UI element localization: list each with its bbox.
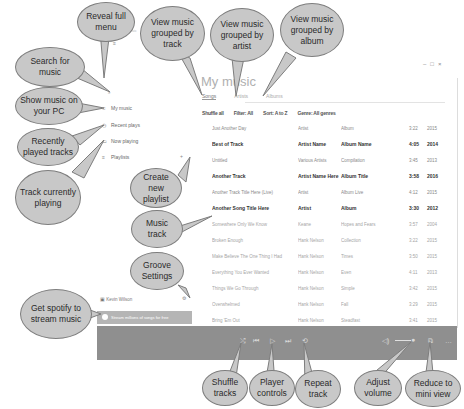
user-account[interactable]: ▣ Kevin Wilson [100,297,132,302]
tab-artists[interactable]: Artists [234,93,248,100]
track-row[interactable]: UntitledVarious ArtistsCompilation3:4520… [212,152,452,168]
callout-shuffle: Shuffle tracks [202,370,248,406]
track-album: Hopes and Fears [341,222,409,227]
callout-group-track: View music grouped by track [140,6,205,61]
track-year: 2015 [427,286,452,291]
track-duration: 3:22 [409,126,427,131]
track-row[interactable]: Broken EnoughHank NelsonCollection3:2220… [212,232,452,248]
track-title: Just Another Day [212,126,298,131]
settings-button[interactable]: ⚙ [182,296,187,301]
track-year: 2015 [427,318,452,323]
user-icon: ▣ [100,297,105,302]
track-row[interactable]: Another Song Title HereArtistAlbum3:3020… [212,200,452,216]
track-album: Times [341,254,409,259]
track-duration: 3:22 [409,238,427,243]
tab-albums[interactable]: Albums [266,93,283,100]
search-icon: ⌕ [108,90,113,95]
track-duration: 3:50 [409,254,427,259]
track-year: 2013 [427,158,452,163]
callout-player-controls: Player controls [249,370,295,406]
callout-spotify: Get spotify to stream music [20,289,92,339]
previous-button[interactable]: ⏮ [253,337,259,345]
track-row[interactable]: Things We Go ThroughHank NelsonSimple3:4… [212,280,452,296]
callout-now-playing: Track currently playing [15,170,81,225]
callout-reveal-menu: Reveal full menu [77,2,135,42]
maximize-button[interactable]: □ [430,61,434,67]
divider [245,102,445,103]
track-artist: Artist Name [298,141,341,147]
track-duration: 4:11 [409,270,427,275]
sidebar-item-now-playing[interactable]: ▭ Now playing [102,138,138,144]
track-row[interactable]: Best of TrackArtist NameAlbum Name4:0520… [212,136,452,152]
track-album: Simple [341,286,409,291]
track-artist: Hank Nelson [298,254,341,259]
track-duration: 3:29 [409,302,427,307]
volume-slider[interactable] [395,340,411,341]
track-year: 2015 [427,238,452,243]
repeat-button[interactable]: ⟲ [302,337,308,345]
hamburger-menu-button[interactable]: ≡ [113,41,118,46]
search-button[interactable]: ⌕ [108,90,113,95]
track-year: 2015 [427,254,452,259]
minimize-button[interactable]: – [423,61,426,67]
volume-icon[interactable]: ◁) [382,337,389,345]
track-row[interactable]: Somewhere Only We KnowKeaneHopes and Fea… [212,216,452,232]
callout-group-album: View music grouped by album [280,3,344,57]
callout-search: Search for music [15,47,85,87]
track-row[interactable]: Everything You Ever WantedHank NelsonEve… [212,264,452,280]
callout-mini-view: Reduce to mini view [405,370,461,407]
mini-view-button[interactable]: ⧉ [428,337,433,345]
track-row[interactable]: Another TrackArtist Name HereAlbum Title… [212,168,452,184]
hamburger-icon: ≡ [113,41,118,46]
track-title: Overwhelmed [212,302,298,307]
track-duration: 4:05 [409,141,427,147]
user-name: Kevin Wilson [106,297,132,302]
close-button[interactable]: × [438,61,442,67]
track-album: Collection [341,238,409,243]
sidebar-item-my-music[interactable]: ♫ My music [102,105,132,111]
track-year: 2015 [427,126,452,131]
volume-knob[interactable]: ● [411,336,415,343]
track-artist: Various Artists [298,158,341,163]
track-row[interactable]: Another Track Title Here (Live)ArtistAlb… [212,184,452,200]
filter-dropdown[interactable]: Filter: All [234,110,253,116]
genre-dropdown[interactable]: Genre: All genres [297,110,335,116]
callout-recent: Recently played tracks [17,128,79,166]
shuffle-button[interactable]: ⤮ [240,337,246,345]
next-button[interactable]: ⏭ [285,337,291,345]
sidebar-item-label: Now playing [111,138,138,144]
clock-icon: ◷ [102,123,107,128]
track-year: 2016 [427,173,452,179]
track-album: Album Live [341,190,409,195]
sidebar-item-playlists[interactable]: ≡ Playlists [102,154,129,160]
track-duration: 3:42 [409,286,427,291]
callout-music-track: Music track [131,210,183,248]
track-year: 2015 [427,190,452,195]
more-button[interactable]: … [445,337,452,344]
vertical-scrollbar[interactable] [457,78,458,328]
shuffle-all-button[interactable]: Shuffle all [202,110,224,116]
track-artist: Artist Name Here [298,173,341,179]
track-row[interactable]: Just Another DayArtistAlbum3:222015 [212,120,452,136]
sidebar-item-recent-plays[interactable]: ◷ Recent plays [102,122,140,128]
track-duration: 3:41 [409,318,427,323]
sidebar-item-label: Recent plays [111,122,140,128]
track-year: 2015 [427,302,452,307]
track-title: Another Track [212,173,298,179]
track-duration: 4:12 [409,190,427,195]
play-button[interactable]: ▷ [270,337,275,345]
track-duration: 3:30 [409,205,427,211]
spotify-banner-text: Stream millions of songs for free [111,315,168,320]
track-title: Another Song Title Here [212,205,298,211]
tab-songs[interactable]: Songs [202,93,216,100]
sort-dropdown[interactable]: Sort: A to Z [263,110,287,116]
track-artist: Artist [298,126,341,131]
track-title: Bring 'Em Out [212,318,298,323]
track-row[interactable]: Make Believe The One Thing I HadHank Nel… [212,248,452,264]
track-row[interactable]: OverwhelmedHank NelsonFall3:292015 [212,296,452,312]
track-artist: Hank Nelson [298,286,341,291]
callout-show-pc: Show music on your PC [15,87,83,125]
plus-icon: + [180,154,185,159]
track-album: Album [341,126,409,131]
new-playlist-button[interactable]: + [180,154,185,159]
